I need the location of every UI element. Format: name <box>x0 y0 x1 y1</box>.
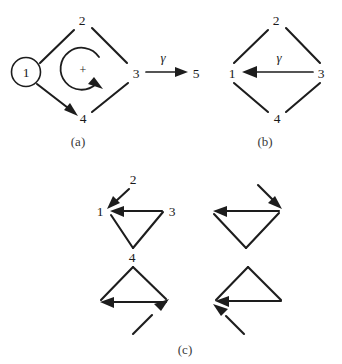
panel-a: 1 2 3 4 5 + γ (a) <box>12 13 200 149</box>
node-label-1: 1 <box>23 65 30 80</box>
c4-edge-apex-right <box>248 267 281 300</box>
node-label-5: 5 <box>193 66 200 81</box>
gamma-label-b: γ <box>276 50 282 65</box>
c3-edge-apex-right <box>133 267 166 299</box>
node-label-b-2: 2 <box>273 13 280 28</box>
c1-edge-1-4 <box>111 215 133 248</box>
c2-edge-bottom-right <box>246 213 279 248</box>
node-label-b-3: 3 <box>318 66 325 81</box>
c4-edge-incoming <box>226 316 244 334</box>
figure-root: 1 2 3 4 5 + γ (a) <box>0 0 342 364</box>
c1-node-label-3: 3 <box>169 204 176 219</box>
node-label-2: 2 <box>79 13 86 28</box>
panel-b: 1 2 3 4 γ (b) <box>229 13 325 149</box>
c3-edge-incoming <box>133 315 152 334</box>
arrowhead-3-5 <box>175 67 188 77</box>
plus-sign-label: + <box>80 63 87 77</box>
c1-node-label-2: 2 <box>130 172 137 187</box>
caption-b: (b) <box>257 134 272 149</box>
gamma-label-a: γ <box>160 50 166 65</box>
c1-edge-4-3 <box>133 212 163 248</box>
c3-edge-left-apex <box>101 267 133 300</box>
node-label-b-4: 4 <box>274 111 281 126</box>
edge-1-2 <box>40 30 74 63</box>
node-label-3: 3 <box>133 66 140 81</box>
arrowhead-b-3-1 <box>242 66 257 78</box>
c1-node-label-4: 4 <box>129 250 136 265</box>
c3-arrowhead-incoming <box>154 299 169 311</box>
edge-2-3 <box>92 28 127 63</box>
c4-arrowhead-incoming <box>213 304 228 316</box>
c2-edge-incoming <box>258 185 274 201</box>
panel-c-subfigure-bottom-left <box>100 267 169 334</box>
c1-node-label-1: 1 <box>97 204 104 219</box>
panel-c-subfigure-top-right <box>213 185 282 248</box>
edge-b-1-4 <box>234 83 268 112</box>
c4-edge-left-apex <box>216 267 248 300</box>
panel-c: 1 2 3 4 <box>97 172 282 357</box>
node-label-4: 4 <box>80 111 87 126</box>
node-label-b-1: 1 <box>229 66 236 81</box>
edge-b-2-3 <box>286 28 320 63</box>
panel-c-subfigure-top-left: 1 2 3 4 <box>97 172 176 265</box>
edge-4-3 <box>92 83 128 112</box>
edge-b-1-2 <box>234 30 268 63</box>
caption-c: (c) <box>178 342 192 357</box>
panel-c-subfigure-bottom-right <box>213 267 281 334</box>
caption-a: (a) <box>71 134 85 149</box>
arrowhead-1-4 <box>64 103 78 116</box>
figure-canvas: 1 2 3 4 5 + γ (a) <box>0 0 342 364</box>
c1-edge-2-1 <box>115 189 129 202</box>
c2-edge-left-bottom <box>214 214 246 248</box>
edge-b-4-3 <box>286 83 320 112</box>
